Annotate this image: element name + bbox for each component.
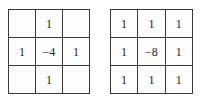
matrix-cell [9, 10, 35, 37]
matrix-cell [63, 10, 89, 37]
matrix-cell [9, 66, 35, 93]
matrix-cell: 1 [111, 10, 137, 37]
kernel-figure: 1 1 −4 1 1 1 1 1 1 −8 1 1 1 1 [0, 0, 201, 103]
matrix-cell: 1 [111, 66, 137, 93]
matrix-cell [63, 66, 89, 93]
matrix-cell-center: −4 [36, 38, 62, 65]
matrix-cell: 1 [138, 10, 164, 37]
matrix-cell: 1 [166, 66, 192, 93]
matrix-laplacian-8-neighbor: 1 1 1 1 −8 1 1 1 1 [110, 9, 193, 94]
matrix-cell: 1 [166, 10, 192, 37]
matrix-cell: 1 [138, 66, 164, 93]
matrix-cell: 1 [9, 38, 35, 65]
matrix-cell: 1 [166, 38, 192, 65]
matrix-cell: 1 [36, 10, 62, 37]
matrix-cell: 1 [111, 38, 137, 65]
matrix-cell: 1 [36, 66, 62, 93]
matrix-cell: 1 [63, 38, 89, 65]
matrix-cell-center: −8 [138, 38, 164, 65]
matrix-laplacian-4-neighbor: 1 1 −4 1 1 [8, 9, 90, 94]
